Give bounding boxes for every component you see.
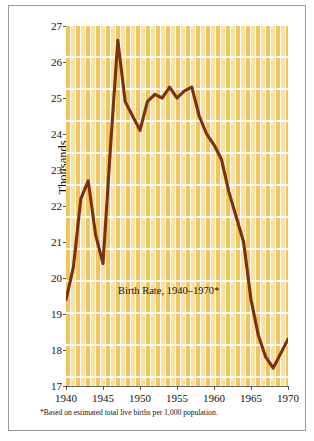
y-axis-tick-labels: 2726252423222120191817 bbox=[26, 26, 62, 386]
chart-inline-title: Birth Rate, 1940–1970* bbox=[118, 285, 219, 296]
y-tick-27: 27 bbox=[28, 20, 62, 32]
x-axis-tick-labels: 1940194519501955196019651970 bbox=[66, 392, 288, 408]
x-tick-1970: 1970 bbox=[266, 392, 310, 404]
x-tick-mark-1965 bbox=[251, 386, 252, 390]
x-tick-mark-1970 bbox=[288, 386, 289, 390]
y-tick-21: 21 bbox=[28, 236, 62, 248]
x-tick-mark-1960 bbox=[214, 386, 215, 390]
y-tick-25: 25 bbox=[28, 92, 62, 104]
plot-area bbox=[66, 26, 288, 386]
figure-container: © Cengage Learning Thousands 27262524232… bbox=[0, 0, 314, 441]
y-tick-24: 24 bbox=[28, 128, 62, 140]
birth-rate-line-series bbox=[66, 26, 288, 386]
y-tick-18: 18 bbox=[28, 344, 62, 356]
y-tick-26: 26 bbox=[28, 56, 62, 68]
x-axis-tick-marks bbox=[66, 386, 288, 391]
chart-footnote: *Based on estimated total live births pe… bbox=[40, 408, 218, 417]
y-tick-23: 23 bbox=[28, 164, 62, 176]
y-tick-22: 22 bbox=[28, 200, 62, 212]
y-tick-20: 20 bbox=[28, 272, 62, 284]
x-tick-mark-1945 bbox=[103, 386, 104, 390]
x-tick-mark-1950 bbox=[140, 386, 141, 390]
x-tick-mark-1955 bbox=[177, 386, 178, 390]
y-tick-19: 19 bbox=[28, 308, 62, 320]
y-tick-17: 17 bbox=[28, 380, 62, 392]
x-tick-mark-1940 bbox=[66, 386, 67, 390]
